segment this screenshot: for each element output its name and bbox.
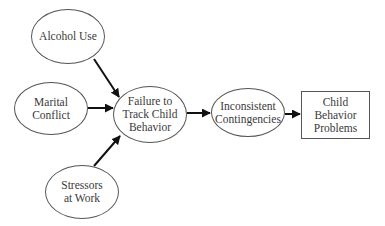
node-alcohol-use: Alcohol Use [31, 9, 105, 64]
node-child-behavior-problems: Child Behavior Problems [301, 91, 370, 139]
node-stressors-at-work-label: Stressors at Work [61, 179, 103, 205]
node-failure-to-track-label: Failure to Track Child Behavior [123, 95, 178, 134]
node-failure-to-track: Failure to Track Child Behavior [113, 86, 187, 143]
edge-alcohol-to-failure [94, 59, 119, 97]
node-inconsistent-contingencies-label: Inconsistent Contingencies [215, 100, 281, 126]
node-stressors-at-work: Stressors at Work [45, 165, 119, 219]
node-marital-conflict-label: Marital Conflict [32, 96, 70, 122]
node-alcohol-use-label: Alcohol Use [39, 30, 97, 43]
node-inconsistent-contingencies: Inconsistent Contingencies [211, 88, 285, 137]
edge-stressors-to-failure [94, 136, 120, 166]
node-marital-conflict: Marital Conflict [14, 82, 88, 135]
node-child-behavior-problems-label: Child Behavior Problems [314, 96, 357, 135]
